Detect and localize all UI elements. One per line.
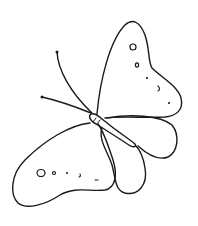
upper-antenna — [57, 52, 92, 113]
wing-spot — [130, 44, 136, 50]
wing-spot — [158, 86, 160, 91]
antennae — [41, 51, 93, 114]
wing-spot — [79, 174, 80, 177]
wing-spot — [146, 77, 148, 79]
wing-spot — [37, 170, 45, 177]
lower-antenna-tip — [41, 96, 44, 99]
upper-forewing — [97, 22, 182, 118]
wing-spot — [168, 102, 170, 104]
body — [90, 114, 136, 147]
butterfly-illustration — [0, 0, 198, 226]
left-wing — [13, 123, 116, 206]
butterfly-drawing — [0, 0, 198, 226]
lower-hindwing — [101, 128, 145, 193]
wing-spot — [66, 172, 68, 174]
upper-antenna-tip — [56, 51, 59, 54]
wing-spot — [135, 63, 138, 67]
wing-spot — [53, 172, 56, 175]
